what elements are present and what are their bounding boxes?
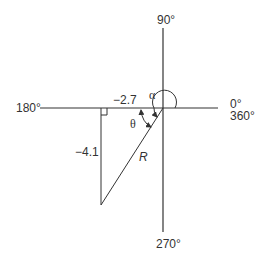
label-alpha: α <box>149 88 156 102</box>
label-90-degrees: 90° <box>157 13 175 27</box>
right-angle-marker <box>101 108 107 115</box>
alpha-arc <box>153 90 177 117</box>
label-vertical-side: −4.1 <box>75 145 99 159</box>
label-360-degrees: 360° <box>230 109 255 123</box>
theta-arc <box>141 110 151 127</box>
label-horizontal-side: −2.7 <box>113 93 137 107</box>
label-270-degrees: 270° <box>156 237 181 251</box>
label-hypotenuse: R <box>139 150 148 164</box>
diagram-svg: 90° 180° 0° 360° 270° −2.7 −4.1 R α θ <box>0 0 262 264</box>
label-theta: θ <box>130 117 136 131</box>
diagram-canvas: 90° 180° 0° 360° 270° −2.7 −4.1 R α θ <box>0 0 262 264</box>
label-180-degrees: 180° <box>16 101 41 115</box>
